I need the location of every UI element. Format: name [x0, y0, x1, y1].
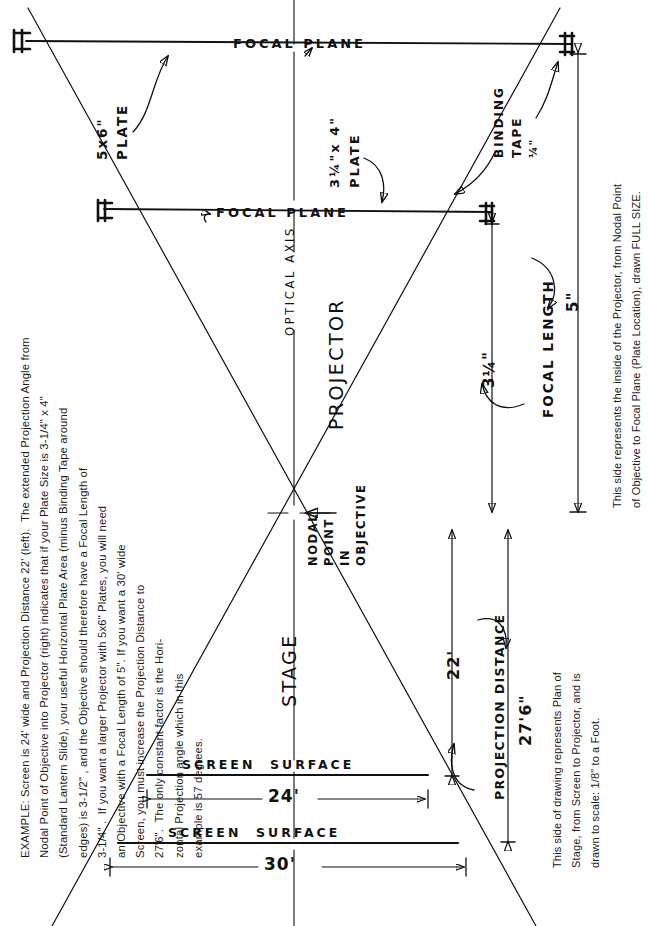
- nodal-point-label-l2: POINT: [322, 518, 336, 566]
- diagram-sheet: EXAMPLE: Screen is 24' wide and Projecti…: [0, 0, 648, 926]
- plate-34x4-label: 3¼"x 4": [327, 116, 342, 188]
- projector-label: PROJECTOR: [325, 298, 347, 430]
- example-note-l2: Nodal Point of Objective into Projector …: [38, 396, 50, 858]
- example-note-l8: 27'6". The only constant factor is the H…: [153, 639, 165, 858]
- projection-distance-22-value: 22': [444, 650, 463, 680]
- example-note-l5: 3-1/4" . If you want a larger Projector …: [96, 506, 108, 858]
- focal-length-5in-dimension: [570, 52, 586, 512]
- binding-tape-size-label: ¼": [527, 139, 540, 158]
- optical-axis-label: OPTICAL AXIS: [283, 226, 297, 336]
- stage-side-note-l1: This side of drawing represents Plan of: [551, 672, 563, 868]
- focal-length-label: FOCAL LENGTH: [540, 279, 556, 418]
- projection-distance-label: PROJECTION DISTANCE: [492, 614, 507, 800]
- screen-surface-outer-label: SCREEN SURFACE: [168, 825, 340, 840]
- stage-side-note-l3: drawn to scale: 1/8" to a Foot.: [589, 718, 601, 868]
- focal-length-3quarter-value: 3¼": [480, 351, 498, 388]
- projector-side-note: This side represents the inside of the P…: [608, 0, 646, 508]
- focal-plane-upper-label: FOCAL PLANE: [233, 36, 366, 51]
- focal-length-5in-value: 5": [564, 292, 582, 312]
- binding-tape-label: BINDING: [492, 86, 506, 158]
- example-note-l1: EXAMPLE: Screen is 24' wide and Projecti…: [19, 337, 31, 858]
- binding-tape-label-line2: TAPE: [510, 116, 524, 158]
- example-note-l4: edges) is 3-1/2" , and the Objective sho…: [77, 468, 89, 858]
- stage-label: STAGE: [278, 633, 300, 707]
- example-note: EXAMPLE: Screen is 24' wide and Projecti…: [16, 138, 208, 858]
- plate-34x4-label-line2: PLATE: [347, 133, 362, 188]
- nodal-point-label-l4: OBJECTIVE: [354, 484, 368, 566]
- plate-34x4-leader: [364, 158, 384, 202]
- projection-distance-leader-22: [451, 744, 474, 790]
- focal-plane-lower-label: FOCAL PLANE: [216, 205, 349, 220]
- example-note-l6: an Objective with a Focal Length of 5". …: [115, 544, 127, 858]
- screen-surface-inner-label: SCREEN SURFACE: [182, 757, 354, 772]
- projector-side-note-l1: This side represents the inside of the P…: [611, 184, 623, 508]
- screen-width-outer-value: 30': [264, 854, 296, 874]
- stage-side-note: This side of drawing represents Plan of …: [548, 568, 605, 868]
- plate-5x6-label-line2: PLATE: [114, 104, 130, 160]
- example-note-l3: (Standard Lantern Slide), your useful Ho…: [57, 408, 69, 858]
- plate-5x6-size: 5x6": [94, 117, 110, 160]
- example-note-l7: Screen, you must increase the Projection…: [134, 585, 146, 858]
- projection-distance-27ft6-value: 27'6": [516, 694, 535, 746]
- stage-side-note-l2: Stage, from Screen to Projector, and is: [570, 673, 582, 868]
- screen-width-inner-value: 24': [268, 786, 300, 806]
- nodal-point-label-l1: NODAL: [306, 513, 320, 566]
- plate-5x6-leader: [133, 56, 168, 132]
- nodal-point-label-l3: IN: [338, 549, 352, 566]
- projector-side-note-l2: of Objective to Focal Plane (Plate Locat…: [630, 191, 642, 508]
- binding-tape-leader-2: [536, 62, 558, 118]
- plate-5x6-label: 5x6": [94, 117, 110, 160]
